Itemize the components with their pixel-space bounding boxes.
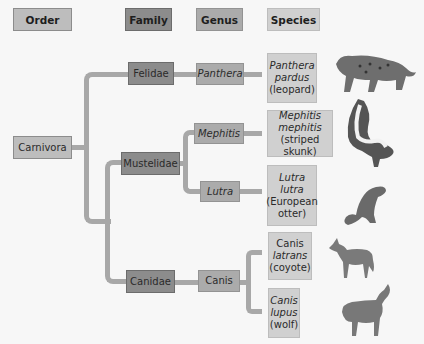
connector-mephitis-species [244, 131, 262, 136]
genus-lutra: Lutra [200, 181, 240, 202]
coyote-illustration-icon [327, 236, 379, 280]
genus-mephitis: Mephitis [194, 123, 244, 144]
connector-to-canidae [105, 222, 127, 284]
species-common-name: (coyote) [269, 262, 311, 274]
genus-panthera: Panthera [196, 63, 244, 85]
otter-illustration-icon [340, 183, 390, 227]
connector-trunk-felidae [84, 72, 129, 152]
species-leopard: Panthera pardus (leopard) [267, 53, 317, 103]
species-striped-skunk: Mephitis mephitis (striped skunk) [267, 110, 333, 157]
species-genus-name: Canis [276, 238, 303, 250]
species-genus-name: Canis [270, 295, 297, 307]
connector-felidae-panthera [173, 72, 196, 77]
genus-canis: Canis [198, 270, 240, 292]
species-wolf: Canis lupus (wolf) [268, 288, 300, 338]
species-european-otter: Lutra lutra (European otter) [267, 165, 317, 226]
connector-lutra-species [240, 189, 262, 194]
connector-to-lutra [183, 160, 201, 194]
header-species: Species [267, 8, 320, 31]
family-canidae: Canidae [126, 270, 175, 293]
wolf-illustration-icon [338, 282, 394, 340]
connector-canidae-canis [175, 280, 199, 285]
order-carnivora: Carnivora [13, 136, 72, 159]
species-genus-name: Panthera [269, 60, 314, 72]
leopard-illustration-icon [330, 50, 420, 96]
connector-panthera-species [244, 72, 262, 77]
species-genus-name: Mephitis [279, 110, 321, 122]
species-common-name: (wolf) [270, 319, 298, 331]
skunk-illustration-icon [338, 97, 398, 169]
species-common-name: (striped skunk) [268, 134, 332, 158]
connector-to-wolf [246, 280, 262, 314]
species-epithet: latrans [273, 250, 308, 262]
species-genus-name: Lutra [279, 172, 305, 184]
species-common-name-cont: otter) [278, 208, 306, 220]
header-genus: Genus [196, 8, 243, 31]
species-epithet: lupus [270, 307, 297, 319]
header-order: Order [13, 8, 72, 31]
species-epithet: pardus [275, 72, 309, 84]
species-common-name: (leopard) [269, 84, 315, 96]
family-mustelidae: Mustelidae [121, 152, 180, 175]
family-felidae: Felidae [128, 62, 174, 85]
species-epithet: lutra [280, 184, 303, 196]
species-common-name: (European [266, 196, 318, 208]
header-family: Family [125, 8, 172, 31]
species-epithet: mephitis [278, 122, 321, 134]
connector-to-coyote [246, 250, 262, 284]
species-coyote: Canis latrans (coyote) [268, 232, 312, 280]
